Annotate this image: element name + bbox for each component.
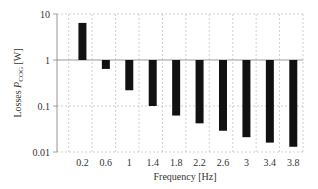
bar-3 xyxy=(242,60,250,137)
bar-2.2 xyxy=(196,60,204,123)
bar-1 xyxy=(125,60,133,90)
y-axis-label: Losses PCOG [W] xyxy=(12,48,25,117)
x-tick-label: 0.2 xyxy=(76,157,89,168)
x-tick-label: 2.2 xyxy=(193,157,206,168)
bar-1.8 xyxy=(172,60,180,116)
bar-1.4 xyxy=(149,60,157,106)
x-tick-label: 0.6 xyxy=(100,157,113,168)
chart-root: 1010.10.010.20.611.41.82.22.633.43.8Freq… xyxy=(0,0,318,189)
bar-chart: 1010.10.010.20.611.41.82.22.633.43.8Freq… xyxy=(0,0,318,189)
y-tick-label: 1 xyxy=(45,55,50,66)
bar-3.4 xyxy=(266,60,274,143)
x-tick-label: 3.8 xyxy=(287,157,300,168)
y-tick-label: 0.1 xyxy=(38,101,51,112)
bar-0.2 xyxy=(78,23,86,60)
x-tick-label: 1 xyxy=(127,157,132,168)
y-tick-label: 0.01 xyxy=(33,147,51,158)
x-tick-label: 3.4 xyxy=(264,157,277,168)
bar-2.6 xyxy=(219,60,227,131)
x-tick-label: 1.4 xyxy=(146,157,159,168)
bar-0.6 xyxy=(102,60,110,69)
x-tick-label: 1.8 xyxy=(170,157,183,168)
bar-3.8 xyxy=(289,60,297,147)
x-axis-label: Frequency [Hz] xyxy=(153,171,216,182)
x-tick-label: 3 xyxy=(244,157,249,168)
x-tick-label: 2.6 xyxy=(217,157,230,168)
y-tick-label: 10 xyxy=(40,9,50,20)
